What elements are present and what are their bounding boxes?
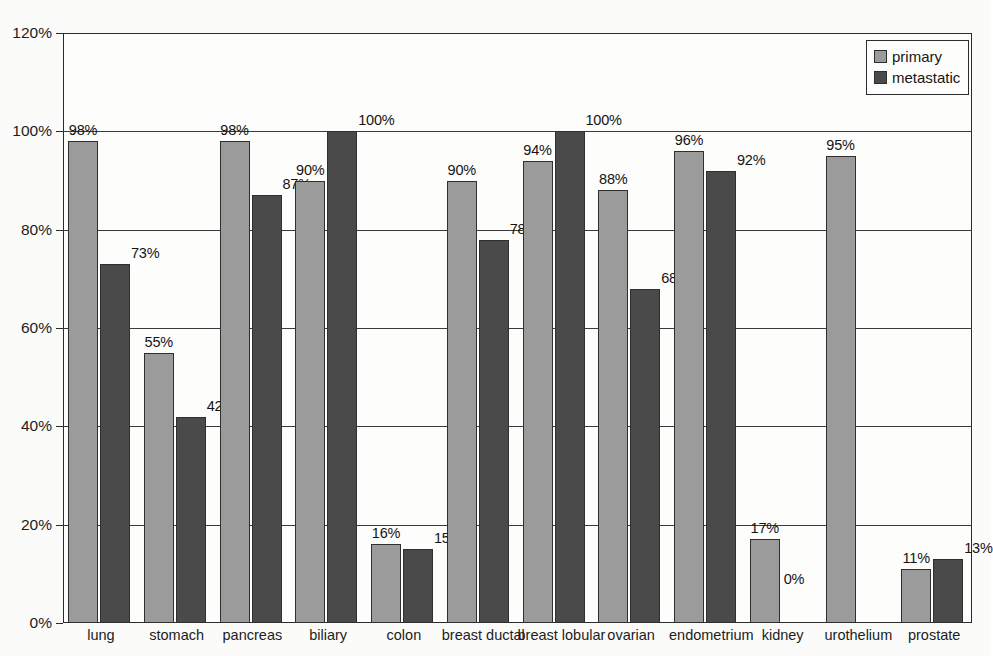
- bar-metastatic[interactable]: [176, 417, 206, 624]
- bar-group: 16%15%: [366, 33, 442, 623]
- bar-group: 17%0%: [745, 33, 821, 623]
- bar-metastatic[interactable]: [327, 131, 357, 623]
- bar-groups-layer: 98%73%55%42%98%87%90%100%16%15%90%78%94%…: [63, 33, 972, 623]
- x-axis-label: endometrium: [669, 627, 745, 643]
- x-axis-label: urothelium: [821, 627, 897, 643]
- legend-label-primary: primary: [892, 48, 942, 65]
- bar-primary[interactable]: [750, 539, 780, 623]
- primary-swatch-icon: [874, 50, 887, 63]
- y-tick-mark: [56, 33, 63, 34]
- bar-value-label: 90%: [445, 162, 479, 178]
- bar-metastatic[interactable]: [630, 289, 660, 623]
- bar-group: 95%: [821, 33, 897, 623]
- bar-group: 98%73%: [63, 33, 139, 623]
- y-tick-mark: [56, 131, 63, 132]
- bar-value-label: 98%: [218, 122, 252, 138]
- bar-primary[interactable]: [295, 181, 325, 624]
- bar-value-label: 0%: [784, 571, 805, 587]
- bar-value-label: 17%: [748, 520, 782, 536]
- bar-group: 94%100%: [518, 33, 594, 623]
- x-axis-label: pancreas: [215, 627, 291, 643]
- x-axis-labels: lungstomachpancreasbiliarycolonbreast du…: [63, 627, 972, 656]
- bar-value-label: 96%: [672, 132, 706, 148]
- bar-group: 90%100%: [290, 33, 366, 623]
- bar-primary[interactable]: [598, 190, 628, 623]
- y-tick-label: 120%: [0, 24, 52, 42]
- x-axis-label: ovarian: [593, 627, 669, 643]
- caption-remnant: [0, 0, 991, 14]
- bar-metastatic[interactable]: [403, 549, 433, 623]
- x-axis-label: prostate: [896, 627, 972, 643]
- bar-group: 98%87%: [215, 33, 291, 623]
- bar-group: 11%13%: [896, 33, 972, 623]
- bar-primary[interactable]: [371, 544, 401, 623]
- bar-group: 55%42%: [139, 33, 215, 623]
- bar-metastatic[interactable]: [706, 171, 736, 623]
- legend-item-metastatic[interactable]: metastatic: [874, 67, 960, 88]
- bar-group: 88%68%: [593, 33, 669, 623]
- y-tick-label: 80%: [0, 221, 52, 239]
- x-axis-label: lung: [63, 627, 139, 643]
- bar-value-label: 90%: [293, 162, 327, 178]
- bar-value-label: 98%: [66, 122, 100, 138]
- bar-primary[interactable]: [674, 151, 704, 623]
- bar-metastatic[interactable]: [252, 195, 282, 623]
- bar-primary[interactable]: [826, 156, 856, 623]
- bar-group: 90%78%: [442, 33, 518, 623]
- legend-label-metastatic: metastatic: [892, 69, 960, 86]
- bar-metastatic[interactable]: [479, 240, 509, 624]
- x-axis-label: stomach: [139, 627, 215, 643]
- bar-metastatic[interactable]: [933, 559, 963, 623]
- bar-value-label: 95%: [824, 137, 858, 153]
- chart-legend: primary metastatic: [866, 40, 969, 95]
- x-axis-label: colon: [366, 627, 442, 643]
- x-axis-label: kidney: [745, 627, 821, 643]
- y-tick-label: 100%: [0, 122, 52, 140]
- y-tick-mark: [56, 426, 63, 427]
- bar-value-label: 11%: [899, 550, 933, 566]
- bar-primary[interactable]: [523, 161, 553, 623]
- x-axis-label: breast ductal: [442, 627, 518, 643]
- bar-value-label: 16%: [369, 525, 403, 541]
- bar-primary[interactable]: [68, 141, 98, 623]
- y-tick-mark: [56, 525, 63, 526]
- y-tick-label: 20%: [0, 516, 52, 534]
- metastatic-swatch-icon: [874, 71, 887, 84]
- bar-value-label: 94%: [521, 142, 555, 158]
- bar-value-label: 55%: [142, 334, 176, 350]
- y-tick-mark: [56, 230, 63, 231]
- y-tick-label: 40%: [0, 417, 52, 435]
- bar-metastatic[interactable]: [555, 131, 585, 623]
- x-axis-label: breast lobular: [518, 627, 594, 643]
- bar-primary[interactable]: [144, 353, 174, 623]
- y-tick-label: 0%: [0, 614, 52, 632]
- x-axis-label: biliary: [290, 627, 366, 643]
- y-tick-mark: [56, 623, 63, 624]
- bar-primary[interactable]: [901, 569, 931, 623]
- bar-value-label: 13%: [964, 540, 992, 556]
- y-tick-mark: [56, 328, 63, 329]
- y-tick-label: 60%: [0, 319, 52, 337]
- bar-primary[interactable]: [220, 141, 250, 623]
- bar-primary[interactable]: [447, 181, 477, 624]
- legend-item-primary[interactable]: primary: [874, 46, 960, 67]
- bar-metastatic[interactable]: [100, 264, 130, 623]
- bar-group: 96%92%: [669, 33, 745, 623]
- bar-value-label: 88%: [596, 171, 630, 187]
